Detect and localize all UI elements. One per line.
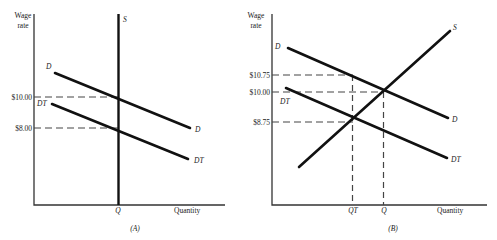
- panel-a-supply-label: S: [123, 15, 127, 24]
- panel-a-y-tick-8-00: $8.00: [0, 124, 32, 133]
- panel-a-x-axis-title: Quantity: [174, 206, 200, 215]
- panel-b-axes: [272, 14, 487, 205]
- economics-figure: Wage rate $10.00 $8.00 Q Quantity S D D …: [0, 0, 497, 240]
- panel-b-demand-tax-label-end: DT: [451, 155, 461, 164]
- panel-b-y-axis-title-line1: Wage: [240, 11, 272, 21]
- panel-b-x-axis-title: Quantity: [437, 206, 463, 215]
- panel-a-x-tick-q: Q: [108, 206, 128, 215]
- panel-a-y-axis-title: Wage rate: [6, 11, 40, 30]
- panel-b-supply-label: S: [453, 23, 457, 32]
- panel-b-demand-curve: [288, 48, 448, 118]
- panel-b-y-tick-10-75: $10.75: [232, 71, 270, 80]
- panel-b-y-axis-title: Wage rate: [240, 11, 272, 30]
- panel-b-supply-curve: [299, 31, 450, 167]
- panel-b-demand-label-start: D: [275, 42, 280, 51]
- panel-b-y-tick-8-75: $8.75: [232, 118, 270, 127]
- panel-b-caption: (B): [378, 224, 408, 233]
- panel-b-group: [272, 14, 487, 205]
- panel-a-y-axis-title-line1: Wage: [6, 11, 40, 21]
- panel-a-demand-label-end: D: [195, 125, 200, 134]
- panel-a-demand-tax-curve: [52, 104, 188, 159]
- panel-b-x-tick-q: Q: [374, 206, 394, 215]
- panel-b-x-tick-qt: QT: [341, 206, 365, 215]
- panel-a-demand-tax-label-start: DT: [37, 99, 47, 108]
- panel-a-y-axis-title-line2: rate: [6, 21, 40, 31]
- panel-a-group: [34, 14, 225, 205]
- panel-b-demand-tax-curve: [286, 88, 447, 158]
- panel-a-demand-label-start: D: [46, 62, 51, 71]
- panel-a-demand-tax-label-end: DT: [194, 156, 204, 165]
- panel-a-y-tick-10-00: $10.00: [0, 93, 32, 102]
- panel-b-demand-tax-label-start: DT: [280, 97, 290, 106]
- panel-a-caption: (A): [120, 224, 150, 233]
- panel-b-y-axis-title-line2: rate: [240, 21, 272, 31]
- panel-b-demand-label-end: D: [452, 115, 457, 124]
- panel-b-y-tick-10-00: $10.00: [232, 88, 270, 97]
- panel-a-demand-curve: [55, 73, 190, 128]
